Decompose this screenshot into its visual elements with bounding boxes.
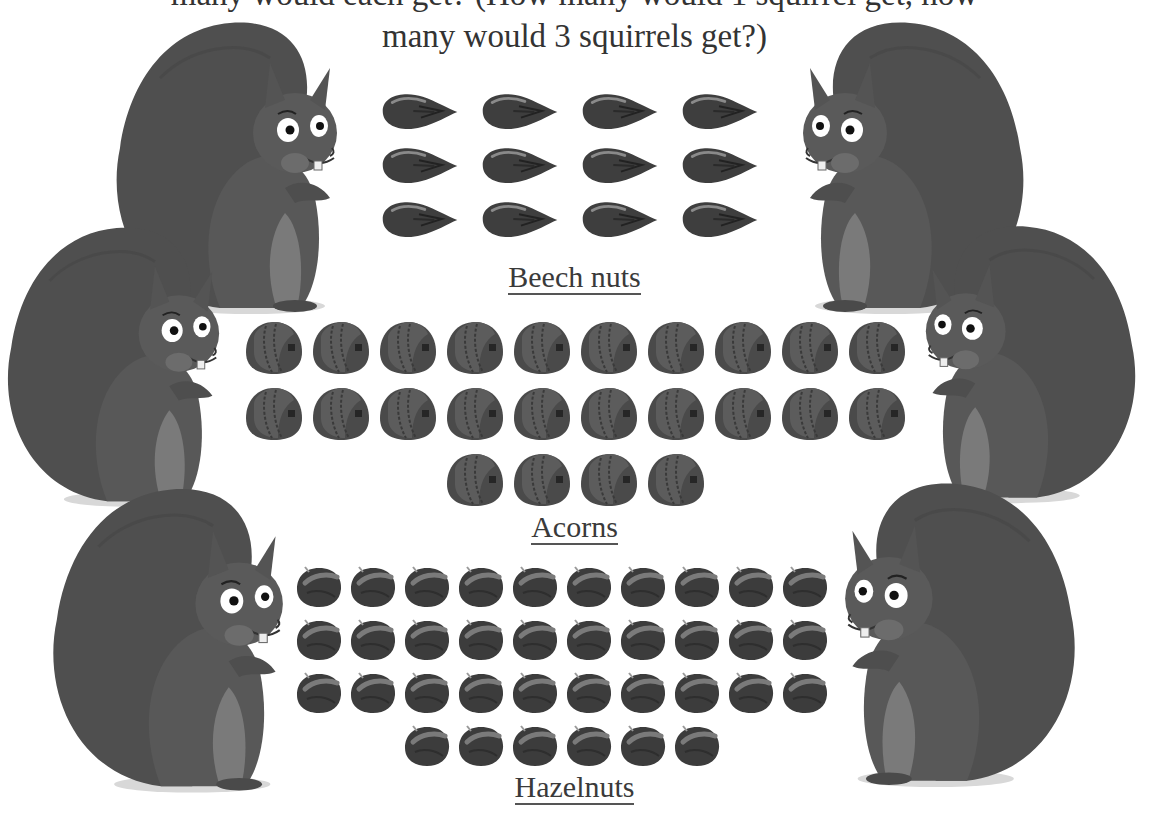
hazelnuts-label-text: Hazelnuts bbox=[515, 770, 635, 805]
beech-nut-icon bbox=[677, 142, 763, 188]
hazelnut-icon bbox=[619, 669, 667, 715]
hazelnut-icon bbox=[511, 722, 559, 768]
nut-row bbox=[288, 722, 836, 775]
acorn-icon bbox=[646, 450, 706, 508]
acorn-icon bbox=[713, 318, 773, 376]
hazelnut-icon bbox=[403, 563, 451, 609]
acorn-icon bbox=[713, 384, 773, 442]
beech-nut-icon bbox=[677, 196, 763, 242]
hazelnut-icon bbox=[727, 616, 775, 662]
beech-nuts-label-text: Beech nuts bbox=[508, 260, 640, 295]
acorn-group bbox=[235, 318, 915, 516]
acorn-icon bbox=[579, 450, 639, 508]
beech-nut-icon bbox=[577, 196, 663, 242]
acorn-icon bbox=[579, 384, 639, 442]
beech-nut-icon bbox=[677, 88, 763, 134]
hazelnut-icon bbox=[781, 616, 829, 662]
hazelnut-icon bbox=[673, 722, 721, 768]
hazelnut-icon bbox=[511, 669, 559, 715]
acorn-icon bbox=[780, 318, 840, 376]
acorn-icon bbox=[445, 450, 505, 508]
hazelnut-icon bbox=[349, 563, 397, 609]
acorn-icon bbox=[445, 384, 505, 442]
beech-nut-icon bbox=[577, 88, 663, 134]
acorns-label: Acorns bbox=[0, 510, 1149, 544]
hazelnut-icon bbox=[457, 669, 505, 715]
beech-nut-icon bbox=[577, 142, 663, 188]
hazelnut-icon bbox=[727, 563, 775, 609]
hazelnut-icon bbox=[457, 616, 505, 662]
hazelnut-icon bbox=[349, 616, 397, 662]
beech-nut-icon bbox=[477, 88, 563, 134]
nut-row bbox=[235, 318, 915, 384]
nut-row bbox=[288, 563, 836, 616]
acorn-icon bbox=[646, 384, 706, 442]
nut-row bbox=[235, 450, 915, 516]
hazelnut-group bbox=[288, 563, 836, 775]
nut-row bbox=[288, 669, 836, 722]
hazelnut-icon bbox=[673, 563, 721, 609]
hazelnut-icon bbox=[781, 669, 829, 715]
nut-row bbox=[370, 88, 770, 142]
nut-row bbox=[370, 196, 770, 250]
hazelnut-icon bbox=[781, 563, 829, 609]
beech-nut-icon bbox=[477, 196, 563, 242]
acorn-icon bbox=[311, 384, 371, 442]
hazelnut-icon bbox=[673, 669, 721, 715]
hazelnut-icon bbox=[565, 563, 613, 609]
hazelnut-icon bbox=[619, 722, 667, 768]
hazelnut-icon bbox=[727, 669, 775, 715]
acorn-icon bbox=[847, 384, 907, 442]
beech-nut-icon bbox=[377, 142, 463, 188]
beech-nut-group bbox=[370, 88, 770, 250]
acorns-label-text: Acorns bbox=[531, 510, 618, 545]
acorn-icon bbox=[847, 318, 907, 376]
hazelnut-icon bbox=[349, 669, 397, 715]
acorn-icon bbox=[512, 384, 572, 442]
acorn-icon bbox=[244, 318, 304, 376]
hazelnut-icon bbox=[295, 669, 343, 715]
acorn-icon bbox=[579, 318, 639, 376]
hazelnut-icon bbox=[403, 669, 451, 715]
acorn-icon bbox=[780, 384, 840, 442]
hazelnut-icon bbox=[673, 616, 721, 662]
acorn-icon bbox=[378, 384, 438, 442]
acorn-icon bbox=[512, 450, 572, 508]
hazelnut-icon bbox=[295, 616, 343, 662]
hazelnut-icon bbox=[619, 563, 667, 609]
acorn-icon bbox=[512, 318, 572, 376]
hazelnut-icon bbox=[565, 616, 613, 662]
nut-row bbox=[235, 384, 915, 450]
hazelnuts-label: Hazelnuts bbox=[0, 770, 1149, 804]
hazelnut-icon bbox=[511, 616, 559, 662]
beech-nut-icon bbox=[477, 142, 563, 188]
acorn-icon bbox=[445, 318, 505, 376]
acorn-icon bbox=[378, 318, 438, 376]
beech-nut-icon bbox=[377, 196, 463, 242]
acorn-icon bbox=[244, 384, 304, 442]
hazelnut-icon bbox=[565, 669, 613, 715]
beech-nuts-label: Beech nuts bbox=[0, 260, 1149, 294]
nut-row bbox=[288, 616, 836, 669]
hazelnut-icon bbox=[565, 722, 613, 768]
question-text-line-1: many would each get? (How many would 1 s… bbox=[0, 0, 1149, 13]
nut-row bbox=[370, 142, 770, 196]
hazelnut-icon bbox=[403, 616, 451, 662]
hazelnut-icon bbox=[457, 563, 505, 609]
hazelnut-icon bbox=[457, 722, 505, 768]
acorn-icon bbox=[311, 318, 371, 376]
hazelnut-icon bbox=[619, 616, 667, 662]
beech-nut-icon bbox=[377, 88, 463, 134]
hazelnut-icon bbox=[403, 722, 451, 768]
hazelnut-icon bbox=[511, 563, 559, 609]
acorn-icon bbox=[646, 318, 706, 376]
hazelnut-icon bbox=[295, 563, 343, 609]
